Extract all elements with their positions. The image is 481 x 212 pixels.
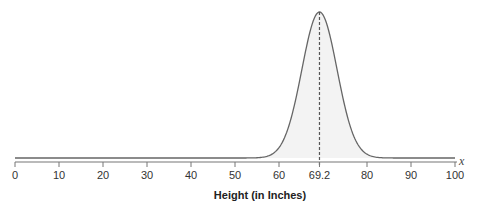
x-tick-label: 50 <box>229 169 241 181</box>
x-tick-label: 30 <box>141 169 153 181</box>
curve-fill <box>15 12 455 158</box>
variable-label: x <box>458 154 465 168</box>
normal-distribution-chart: 010203040506069.28090100 x Height (in In… <box>0 0 481 212</box>
x-tick-label: 0 <box>12 169 18 181</box>
curve-line <box>15 12 455 158</box>
x-tick-label: 80 <box>361 169 373 181</box>
x-tick-label: 40 <box>185 169 197 181</box>
x-tick-label: 69.2 <box>309 169 330 181</box>
x-tick-label: 60 <box>273 169 285 181</box>
x-tick-label: 90 <box>405 169 417 181</box>
x-tick-label: 20 <box>97 169 109 181</box>
x-tick-label: 100 <box>446 169 464 181</box>
density-curve <box>15 12 455 166</box>
x-axis: 010203040506069.28090100 <box>12 162 464 181</box>
x-axis-title: Height (in Inches) <box>214 189 307 201</box>
x-tick-label: 10 <box>53 169 65 181</box>
